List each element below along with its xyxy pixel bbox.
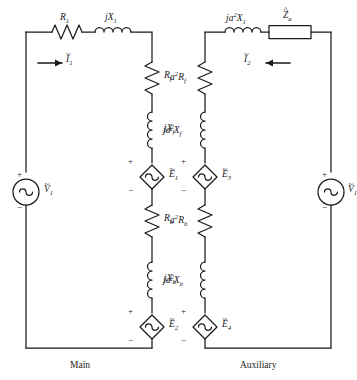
label-a2rb-subscript: b: [184, 220, 187, 227]
label-za: ^Za: [283, 11, 292, 23]
resistor-r1-symbol: [52, 25, 82, 39]
polarity-plus-e2: +: [128, 307, 133, 316]
label-ja2xb-subscript: b: [180, 280, 183, 287]
label-i2-subscript: 2: [247, 59, 250, 66]
label-ja2x1-subscript: 1: [243, 18, 246, 25]
label-ja2xb: ja2Xb: [163, 274, 183, 288]
label-ja2x1: ja2X1: [226, 12, 246, 26]
tilde-accent-i2: ~: [244, 50, 247, 59]
label-e3-subscript: 3: [228, 174, 231, 181]
inductor-jx1-symbol: [95, 28, 131, 33]
polarity-minus-e2: −: [128, 336, 133, 345]
source-e2-sine: [146, 324, 159, 331]
inductor-ja2xf-symbol: [201, 112, 206, 148]
label-jx1-subscript: 1: [113, 17, 116, 24]
polarity-minus-e1: −: [128, 186, 133, 195]
caption-main: Main: [70, 361, 90, 371]
label-e1-subscript: 1: [175, 174, 178, 181]
inductor-ja2x1-symbol: [225, 28, 261, 33]
polarity-plus-e1: +: [128, 157, 133, 166]
label-r1-subscript: 1: [66, 17, 69, 24]
label-za-subscript: a: [288, 15, 291, 22]
label-i1: ~I1: [66, 55, 73, 67]
hat-accent-za: ^: [283, 6, 288, 15]
label-e2-subscript: 2: [175, 324, 178, 331]
resistor-rf-symbol: [145, 62, 159, 94]
polarity-plus-e3: +: [181, 157, 186, 166]
tilde-accent-e3: ~: [222, 165, 228, 174]
label-v1-left: ~V1: [44, 185, 53, 197]
label-ja2xf: ja2Xf: [163, 124, 182, 138]
label-a2rf-subscript: f: [184, 77, 186, 84]
label-jx1: jX1: [105, 13, 117, 25]
label-i2: ~I2: [244, 55, 251, 67]
label-ja2xf-subscript: f: [180, 130, 182, 137]
resistor-a2rf-symbol: [198, 62, 212, 94]
current-i1-arrow-head: [55, 60, 62, 67]
tilde-accent-e2: ~: [169, 315, 175, 324]
inductor-ja2xb-symbol: [201, 262, 206, 298]
label-e4: ~E4: [222, 320, 231, 332]
source-e1-sine: [146, 174, 159, 181]
source-v1-left-sine: [20, 189, 33, 196]
tilde-accent-v1-left: ~: [44, 180, 50, 189]
current-i2-arrow-head: [266, 60, 273, 67]
source-e3-sine: [199, 174, 212, 181]
label-a2rf: a2Rf: [170, 71, 186, 85]
tilde-accent-i1: ~: [66, 50, 69, 59]
polarity-minus-e4: −: [181, 336, 186, 345]
inductor-jxb-symbol: [148, 262, 153, 298]
polarity-minus-e3: −: [181, 186, 186, 195]
label-v1-right: ~V1: [348, 185, 357, 197]
resistor-rb-symbol: [145, 205, 159, 237]
label-i1-subscript: 1: [69, 59, 72, 66]
label-e3: ~E3: [222, 170, 231, 182]
source-e4-sine: [199, 324, 212, 331]
source-v1-right-sine: [325, 189, 338, 196]
polarity-plus-v1-left: +: [17, 170, 22, 179]
label-e1: ~E1: [169, 170, 178, 182]
polarity-minus-v1-left: −: [17, 203, 22, 212]
inductor-jxf-symbol: [148, 112, 153, 148]
label-e2: ~E2: [169, 320, 178, 332]
polarity-plus-e4: +: [181, 307, 186, 316]
tilde-accent-e4: ~: [222, 315, 228, 324]
polarity-minus-v1-right: −: [322, 203, 327, 212]
impedance-za-box: [269, 26, 311, 39]
label-r1: R1: [60, 13, 69, 25]
resistor-a2rb-symbol: [198, 205, 212, 237]
tilde-accent-v1-right: ~: [348, 180, 354, 189]
tilde-accent-e1: ~: [169, 165, 175, 174]
label-v1-left-subscript: 1: [50, 189, 53, 196]
caption-auxiliary: Auxiliary: [240, 361, 276, 371]
polarity-plus-v1-right: +: [322, 170, 327, 179]
circuit-schematic: [0, 0, 357, 380]
label-a2rb: a2Rb: [170, 214, 187, 228]
label-e4-subscript: 4: [228, 324, 231, 331]
